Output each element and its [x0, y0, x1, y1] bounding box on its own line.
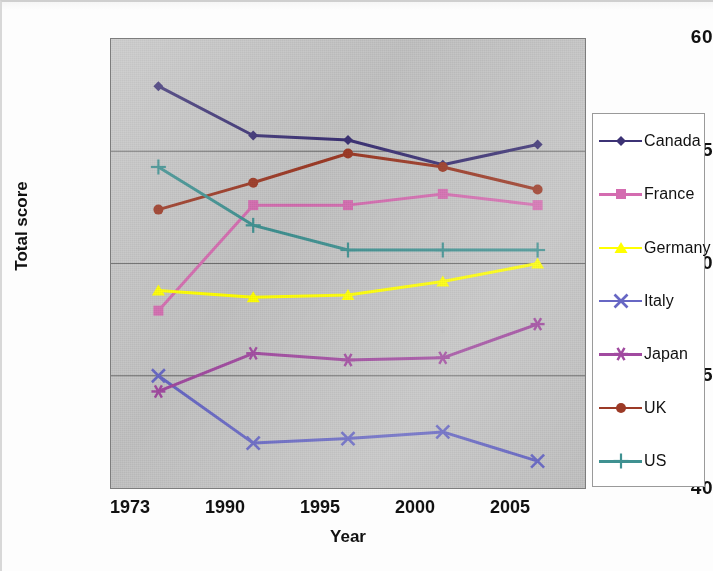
plot-svg [111, 39, 585, 488]
star-marker [341, 354, 355, 366]
legend-item-label: Japan [644, 345, 688, 363]
square-marker [343, 200, 353, 210]
circle-marker [248, 178, 258, 188]
circle-marker [343, 148, 353, 158]
plus-marker [341, 243, 356, 258]
triangle-marker [614, 242, 627, 253]
square-marker [616, 189, 626, 199]
plus-marker [613, 454, 628, 469]
diamond-marker [597, 130, 644, 152]
legend-marker-glyph [610, 290, 632, 312]
star-marker [531, 318, 545, 330]
legend-marker-glyph [610, 397, 632, 419]
square-marker [597, 183, 644, 205]
star-marker [151, 385, 165, 397]
legend-marker-glyph [610, 343, 632, 365]
legend-marker-glyph [610, 237, 632, 259]
y-axis-label: Total score [12, 136, 32, 316]
legend-item-label: US [644, 452, 666, 470]
square-marker [533, 200, 543, 210]
legend-marker-glyph [610, 450, 632, 472]
line-chart-figure: 60 55 50 45 40 Total score 1973 1990 199… [0, 0, 713, 571]
diamond-marker [616, 136, 626, 146]
legend-item-label: Italy [644, 292, 674, 310]
legend-item-label: Germany [644, 239, 711, 257]
legend-item-germany[interactable]: Germany [593, 234, 706, 262]
star-marker [436, 352, 450, 364]
x-tick-label: 2005 [455, 497, 565, 518]
series-japan [151, 318, 544, 397]
x-marker [614, 295, 627, 308]
legend-item-label: UK [644, 399, 666, 417]
plus-marker [151, 159, 166, 174]
circle-marker [616, 403, 626, 413]
circle-marker [153, 205, 163, 215]
legend-item-label: Canada [644, 132, 701, 150]
chart-legend: CanadaFranceGermanyItalyJapanUKUS [592, 113, 705, 487]
plus-marker [435, 243, 450, 258]
series-layer [151, 81, 545, 467]
legend-item-label: France [644, 185, 694, 203]
x-marker [597, 290, 644, 312]
legend-item-us[interactable]: US [593, 447, 706, 475]
series-germany [152, 258, 544, 303]
plus-marker [597, 450, 644, 472]
circle-marker [597, 397, 644, 419]
star-marker [614, 348, 628, 360]
legend-item-uk[interactable]: UK [593, 394, 706, 422]
plus-marker [246, 218, 261, 233]
plus-marker [530, 243, 545, 258]
x-tick-label: 1973 [75, 497, 185, 518]
circle-marker [533, 184, 543, 194]
square-marker [438, 189, 448, 199]
legend-marker-glyph [610, 130, 632, 152]
x-axis-label: Year [110, 527, 586, 547]
series-italy [152, 369, 544, 467]
x-tick-label: 1995 [265, 497, 375, 518]
x-tick-label: 2000 [360, 497, 470, 518]
legend-item-canada[interactable]: Canada [593, 127, 706, 155]
diamond-marker [343, 135, 353, 145]
y-tick-label: 60 [621, 26, 713, 48]
x-tick-label: 1990 [170, 497, 280, 518]
square-marker [248, 200, 258, 210]
circle-marker [438, 162, 448, 172]
star-marker [597, 343, 644, 365]
legend-marker-glyph [610, 183, 632, 205]
square-marker [153, 306, 163, 316]
star-marker [246, 347, 260, 359]
diamond-marker [533, 140, 543, 150]
legend-item-italy[interactable]: Italy [593, 287, 706, 315]
legend-item-japan[interactable]: Japan [593, 340, 706, 368]
legend-item-france[interactable]: France [593, 180, 706, 208]
series-line [158, 376, 537, 461]
plot-area [110, 38, 586, 489]
triangle-marker [597, 237, 644, 259]
